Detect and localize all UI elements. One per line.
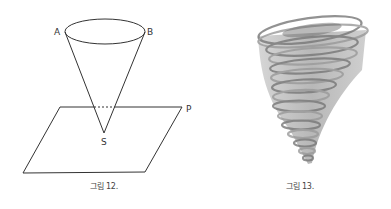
tornado-illustration xyxy=(200,0,391,209)
figure-13-tornado: 그림 13. xyxy=(200,0,391,209)
label-a: A xyxy=(54,27,61,37)
figure-12-cone-plane: A B S P 그림 12. xyxy=(0,0,200,209)
cone-plane-diagram: A B S P xyxy=(0,0,200,209)
cone-base-ellipse xyxy=(65,19,145,44)
label-p: P xyxy=(186,104,192,114)
label-b: B xyxy=(147,27,153,37)
label-s: S xyxy=(101,137,107,147)
figure-caption: 그림 12. xyxy=(64,180,144,191)
figure-caption: 그림 13. xyxy=(260,180,340,191)
cone-side-left xyxy=(65,32,104,133)
cone-side-right xyxy=(104,32,145,133)
